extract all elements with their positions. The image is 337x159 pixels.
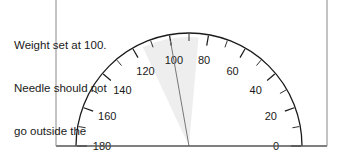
scale-label: 60 (226, 65, 238, 77)
annotation-line: Weight set at 100. (14, 38, 149, 52)
tick-mark (280, 90, 286, 94)
tick-mark (267, 74, 275, 80)
tick-mark (292, 127, 299, 128)
tick-mark (225, 41, 227, 48)
tick-mark (285, 108, 294, 111)
gauge-diagram-figure: 020406080100120140160180 Weight set at 1… (0, 0, 337, 159)
annotation-note: Weight set at 100. Needle should not go … (14, 10, 149, 159)
tick-mark (256, 60, 261, 65)
scale-label: 20 (265, 110, 277, 122)
annotation-line: go outside the (14, 124, 149, 138)
tick-mark (240, 49, 245, 58)
annotation-line: Needle should not (14, 81, 149, 95)
scale-label: 80 (198, 54, 210, 66)
tick-mark (207, 36, 209, 46)
scale-label: 40 (250, 84, 262, 96)
